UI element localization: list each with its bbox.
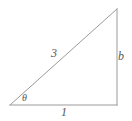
theta-angle-label: θ: [22, 93, 27, 103]
hypotenuse-line: [10, 9, 117, 105]
horizontal-leg-label: 1: [61, 106, 67, 118]
hypotenuse-label: 3: [51, 47, 57, 59]
triangle-diagram: 3 b 1 θ: [0, 0, 132, 121]
vertical-leg-label: b: [118, 50, 124, 62]
triangle-shape: [0, 0, 132, 121]
